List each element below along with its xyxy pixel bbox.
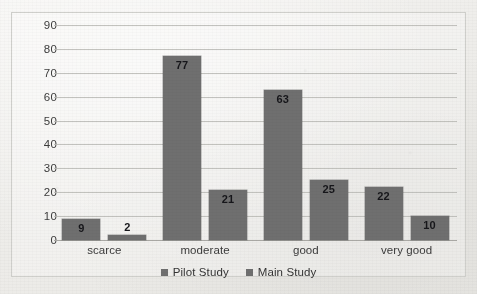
bar-value-label: 2: [108, 221, 146, 233]
bar-pilot-study-good[interactable]: 63: [264, 90, 302, 241]
x-axis-category-label: good: [293, 244, 319, 256]
bar-pilot-study-moderate[interactable]: 77: [163, 56, 201, 240]
legend-label: Main Study: [258, 266, 317, 278]
chart-page: 9080706050403020100 92772163252210 scarc…: [0, 0, 477, 294]
bar-value-label: 21: [209, 193, 247, 205]
legend-swatch-icon: [161, 269, 168, 276]
chart-legend: Pilot StudyMain Study: [12, 266, 465, 278]
legend-label: Pilot Study: [173, 266, 229, 278]
bar-value-label: 10: [411, 219, 449, 231]
bar-main-study-very-good[interactable]: 10: [411, 216, 449, 240]
bar-value-label: 9: [62, 222, 100, 234]
plot-area: 92772163252210: [54, 25, 457, 240]
bar-main-study-scarce[interactable]: 2: [108, 235, 146, 240]
bar-main-study-moderate[interactable]: 21: [209, 190, 247, 240]
x-axis-category-label: very good: [381, 244, 432, 256]
gridline-0: [54, 240, 457, 241]
bar-value-label: 22: [365, 190, 403, 202]
x-axis-category-label: scarce: [87, 244, 121, 256]
legend-swatch-icon: [246, 269, 253, 276]
bar-pilot-study-scarce[interactable]: 9: [62, 219, 100, 241]
bar-main-study-good[interactable]: 25: [310, 180, 348, 240]
bar-pilot-study-very-good[interactable]: 22: [365, 187, 403, 240]
bar-group-container: 92772163252210: [54, 25, 457, 240]
chart-frame: 9080706050403020100 92772163252210 scarc…: [11, 12, 466, 277]
bar-value-label: 63: [264, 93, 302, 105]
bar-value-label: 25: [310, 183, 348, 195]
legend-item-pilot-study[interactable]: Pilot Study: [161, 266, 229, 278]
x-axis-category-label: moderate: [180, 244, 229, 256]
legend-item-main-study[interactable]: Main Study: [246, 266, 317, 278]
bar-value-label: 77: [163, 59, 201, 71]
x-axis-labels: scarcemoderategoodvery good: [54, 244, 457, 262]
